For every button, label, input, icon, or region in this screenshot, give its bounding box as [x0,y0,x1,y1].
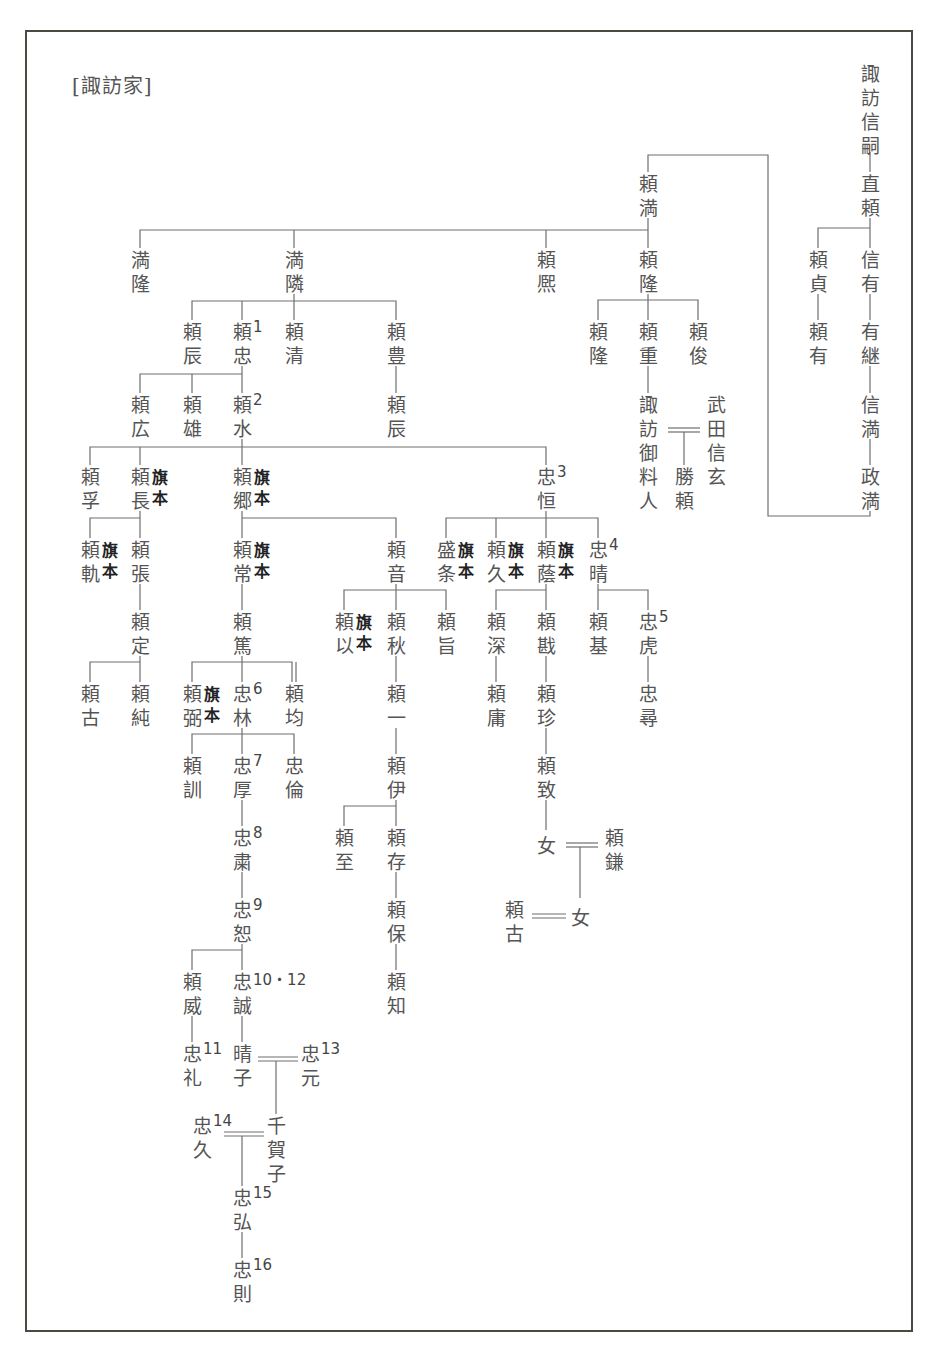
person-katsuyori: 勝頼 [673,465,695,513]
person-nobuari: 信有 [859,248,881,296]
hatamoto-tag: 旗本 [557,540,575,582]
person-yoritada: 頼忠 [231,320,253,368]
succession-number: 3 [557,463,567,481]
person-tadaatsu: 忠厚 [231,754,253,802]
person-tadakiyo: 忠粛 [231,826,253,874]
person-yorifuru2: 頼古 [503,898,525,946]
hatamoto-tag: 旗本 [507,540,525,582]
succession-number: 8 [253,824,263,842]
succession-number: 2 [253,391,263,409]
person-yoritaka: 頼隆 [637,248,659,296]
person-masamitsu: 政満 [859,465,881,513]
person-yorisada: 頼貞 [807,248,829,296]
person-tadahiro2: 忠弘 [231,1186,253,1234]
person-yoritada2: 頼伊 [385,754,407,802]
person-tadaharu: 忠晴 [587,538,609,586]
person-yoriari2: 頼存 [385,826,407,874]
person-tadanori: 忠則 [231,1258,253,1306]
person-yorikun: 頼訓 [181,754,203,802]
succession-number: 16 [253,1256,272,1274]
person-yorikiri: 頼戡 [535,610,557,658]
person-yorifuka: 頼深 [485,610,507,658]
person-yorimichi: 頼至 [333,826,355,874]
person-aritsugu: 有継 [859,320,881,368]
person-tadatsune: 忠恒 [535,465,557,513]
person-yoromizu: 頼水 [231,393,253,441]
person-tadamakoto: 忠誠 [231,970,253,1018]
person-onna1: 女 [535,834,557,858]
person-tadahiro: 忠尋 [637,682,659,730]
person-yorihisa: 頼久 [485,538,507,586]
person-yorinaga: 頼長 [129,465,151,513]
person-shingen: 武田信玄 [705,393,727,489]
hatamoto-tag: 旗本 [253,467,271,509]
succession-number: 10・12 [253,968,306,989]
succession-number: 7 [253,752,263,770]
person-yorine: 頼音 [385,538,407,586]
person-yorifuji: 頼蔭 [535,538,557,586]
person-yorimoto: 頼基 [587,610,609,658]
person-tadatora: 忠虎 [637,610,659,658]
succession-number: 14 [213,1112,232,1130]
hatamoto-tag: 旗本 [203,684,221,726]
person-yorimochi: 頼以 [333,610,355,658]
hatamoto-tag: 旗本 [355,612,373,654]
person-chikako: 千賀子 [265,1114,287,1186]
genealogy-connectors [0,0,949,1356]
person-yorisada2: 頼定 [129,610,151,658]
person-yorikane: 頼鎌 [603,826,625,874]
succession-number: 15 [253,1184,272,1202]
person-morieda: 盛条 [435,538,457,586]
person-yorichin: 頼珍 [535,682,557,730]
person-tadahisa: 忠久 [191,1114,213,1162]
person-yoritoki2: 頼辰 [385,393,407,441]
person-yorimitsu: 頼満 [637,172,659,220]
person-haruko: 晴子 [231,1042,253,1090]
person-yorijun: 頼純 [129,682,151,730]
succession-number: 5 [659,608,669,626]
person-yoritake: 頼威 [181,970,203,1018]
person-goryonin: 諏訪御料人 [637,393,659,513]
person-nobutsugu: 諏訪信嗣 [859,62,881,158]
hatamoto-tag: 旗本 [457,540,475,582]
succession-number: 11 [203,1040,222,1058]
person-yoritaka2: 頼隆 [587,320,609,368]
person-yorisuke: 頼孚 [79,465,101,513]
person-tadaaya: 忠礼 [181,1042,203,1090]
succession-number: 4 [609,536,619,554]
person-tadamichi: 忠恕 [231,898,253,946]
person-yorihiro: 頼熈 [535,248,557,296]
succession-number: 13 [321,1040,340,1058]
person-mitsutaka: 満隆 [129,248,151,296]
person-nobumitsu: 信満 [859,393,881,441]
person-yorikatsu: 頼雄 [181,393,203,441]
person-yorikiyo: 頼清 [283,320,305,368]
person-onna2: 女 [569,906,591,930]
person-yoriatsu: 頼篤 [231,610,253,658]
person-yoriari: 頼有 [807,320,829,368]
person-tadamoto: 忠元 [299,1042,321,1090]
person-yoritsune: 頼常 [231,538,253,586]
person-yoritoshi: 頼俊 [687,320,709,368]
person-yorishige: 頼重 [637,320,659,368]
person-yoriyasu: 頼庸 [485,682,507,730]
person-yorinori: 頼軌 [79,538,101,586]
person-yorimune: 頼旨 [435,610,457,658]
succession-number: 1 [253,318,263,336]
person-yoritoyo: 頼豊 [385,320,407,368]
person-tadatoki: 忠林 [231,682,253,730]
person-mitsuchika: 満隣 [283,248,305,296]
person-yorifuru: 頼古 [79,682,101,730]
hatamoto-tag: 旗本 [151,467,169,509]
person-yorimune2: 頼致 [535,754,557,802]
person-tadatomo: 忠倫 [283,754,305,802]
person-yoritomo: 頼知 [385,970,407,1018]
person-yoritoki: 頼辰 [181,320,203,368]
person-yoriyowa: 頼弼 [181,682,203,730]
succession-number: 9 [253,896,263,914]
succession-number: 6 [253,680,263,698]
hatamoto-tag: 旗本 [101,540,119,582]
person-yoriichi: 頼一 [385,682,407,730]
person-yorihitoshi: 頼均 [283,682,305,730]
person-naoyori: 直頼 [859,172,881,220]
